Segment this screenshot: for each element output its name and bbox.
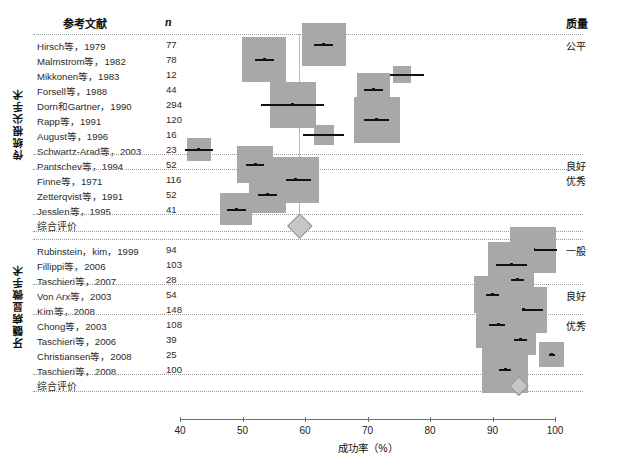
axis-tick-label: 40 bbox=[165, 425, 195, 436]
axis-tick-label: 90 bbox=[478, 425, 508, 436]
study-label: Von Arx等，2003 bbox=[37, 289, 111, 303]
point-estimate bbox=[375, 118, 378, 121]
table-row: Jesslen等，199541 bbox=[0, 203, 617, 218]
study-sample-size: 294 bbox=[166, 99, 182, 110]
study-sample-size: 108 bbox=[166, 319, 182, 330]
study-label: Zetterqvist等，1991 bbox=[37, 189, 123, 203]
study-label: Rubinstein，kim，1999 bbox=[37, 244, 139, 258]
point-estimate bbox=[550, 353, 553, 356]
study-sample-size: 116 bbox=[166, 174, 181, 185]
point-estimate bbox=[504, 368, 507, 371]
quality-rating: 公平 bbox=[566, 38, 586, 53]
study-sample-size: 77 bbox=[166, 39, 177, 50]
quality-rating: 良好 bbox=[566, 158, 586, 173]
study-label: Kim等，2008 bbox=[37, 304, 95, 318]
study-label: Finne等，1971 bbox=[37, 174, 102, 188]
column-header-n: n bbox=[165, 15, 172, 30]
study-sample-size: 78 bbox=[166, 54, 177, 65]
point-estimate bbox=[322, 43, 325, 46]
study-label: Pantschev等，1994 bbox=[37, 159, 123, 173]
study-sample-size: 16 bbox=[166, 129, 177, 140]
study-label: Hirsch等，1979 bbox=[37, 39, 106, 53]
study-label: Dorn和Gartner，1990 bbox=[37, 99, 132, 113]
quality-rating: 一般 bbox=[566, 243, 586, 258]
study-label: Mikkonen等，1983 bbox=[37, 69, 119, 83]
point-estimate bbox=[516, 278, 519, 281]
point-estimate bbox=[372, 88, 375, 91]
row-separator bbox=[33, 231, 583, 232]
axis-tick bbox=[430, 417, 431, 422]
point-estimate bbox=[197, 148, 200, 151]
study-label: Jesslen等，1995 bbox=[37, 204, 111, 218]
study-label: Christiansen等，2008 bbox=[37, 349, 132, 363]
point-estimate bbox=[497, 323, 500, 326]
point-estimate bbox=[519, 338, 522, 341]
study-label: Fillippi等，2006 bbox=[37, 259, 106, 273]
study-label: Rapp等，1991 bbox=[37, 114, 101, 128]
axis-tick-label: 60 bbox=[290, 425, 320, 436]
point-estimate bbox=[291, 103, 294, 106]
point-estimate bbox=[266, 193, 269, 196]
point-estimate bbox=[323, 134, 325, 136]
axis-tick bbox=[493, 417, 494, 422]
axis-tick bbox=[243, 417, 244, 422]
quality-rating: 优秀 bbox=[566, 318, 586, 333]
study-label: August等，1996 bbox=[37, 129, 108, 143]
study-sample-size: 12 bbox=[166, 69, 177, 80]
point-estimate bbox=[263, 58, 266, 61]
axis-tick bbox=[305, 417, 306, 422]
column-header-reference: 参考文献 bbox=[63, 15, 107, 31]
point-estimate bbox=[235, 208, 238, 211]
axis-line bbox=[180, 419, 555, 420]
column-header-quality: 质量 bbox=[566, 15, 588, 31]
study-label: Chong等，2003 bbox=[37, 319, 107, 333]
study-sample-size: 25 bbox=[166, 349, 177, 360]
row-separator bbox=[33, 214, 583, 215]
quality-rating: 良好 bbox=[566, 288, 586, 303]
study-label: Malmstrom等，1982 bbox=[37, 54, 126, 68]
point-estimate bbox=[522, 308, 525, 311]
axis-tick-label: 70 bbox=[353, 425, 383, 436]
table-row: August等，199616 bbox=[0, 128, 617, 143]
study-sample-size: 103 bbox=[166, 259, 182, 270]
forest-plot: 参考文献 n 质量 传统根尖手术 牙髓病显微手术 Hirsch等，197977公… bbox=[0, 0, 617, 459]
study-label: Schwartz-Arad等，2003 bbox=[37, 144, 141, 158]
axis-tick bbox=[368, 417, 369, 422]
study-label: Taschieri等，2007 bbox=[37, 274, 116, 288]
study-sample-size: 44 bbox=[166, 84, 177, 95]
study-sample-size: 52 bbox=[166, 189, 177, 200]
study-label: Taschieri等，2008 bbox=[37, 364, 116, 378]
study-label: Forsell等，1988 bbox=[37, 84, 107, 98]
quality-rating: 优秀 bbox=[566, 173, 586, 188]
study-sample-size: 54 bbox=[166, 289, 177, 300]
point-estimate bbox=[401, 74, 403, 76]
axis-tick bbox=[180, 417, 181, 422]
axis-title: 成功率（%） bbox=[0, 440, 617, 455]
point-estimate bbox=[491, 293, 494, 296]
row-separator bbox=[33, 239, 583, 240]
axis-tick-label: 50 bbox=[228, 425, 258, 436]
axis-tick-label: 80 bbox=[415, 425, 445, 436]
study-label: Taschieri等，2006 bbox=[37, 334, 116, 348]
study-sample-size: 120 bbox=[166, 114, 182, 125]
axis-tick-label: 100 bbox=[540, 425, 570, 436]
row-separator bbox=[33, 154, 583, 155]
point-estimate bbox=[254, 163, 257, 166]
study-sample-size: 94 bbox=[166, 244, 177, 255]
study-sample-size: 39 bbox=[166, 334, 177, 345]
point-estimate bbox=[294, 178, 297, 181]
axis-tick bbox=[555, 417, 556, 422]
